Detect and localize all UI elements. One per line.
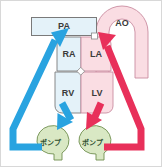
lv-label: LV — [92, 88, 103, 98]
heart-circulation-diagram: AO PA RA LA RV LV — [0, 0, 162, 167]
aorta-label: AO — [115, 18, 129, 28]
rv-label: RV — [62, 88, 74, 98]
ra-label: RA — [63, 49, 76, 59]
diagram-canvas: AO PA RA LA RV LV — [0, 0, 162, 167]
pump-left-group: ポンプ — [37, 126, 69, 160]
pump-right-label: ポンプ — [82, 138, 104, 147]
la-label: LA — [90, 49, 102, 59]
valve-aortic-group — [92, 33, 98, 39]
pump-right-group: ポンプ — [79, 126, 111, 160]
valve-aortic-square-icon — [92, 33, 98, 39]
pump-left-label: ポンプ — [40, 138, 62, 147]
right-ventricle-group: RV — [55, 72, 81, 113]
